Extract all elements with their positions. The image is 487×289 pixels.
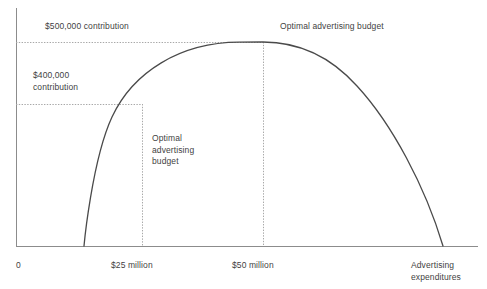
contribution-curve-figure: $500,000 contribution $400,000 contribut… [0,0,487,289]
contribution-500-label: $500,000 contribution [45,21,129,33]
x-axis-title: Advertising expenditures [411,260,461,283]
x-tick-label-zero: 0 [16,260,21,272]
contribution-400-label: $400,000 contribution [33,70,78,93]
optimal-budget-inner-label: Optimal advertising budget [152,133,194,168]
chart-plot-area [0,0,487,289]
optimal-budget-top-label: Optimal advertising budget [280,21,384,33]
x-tick-label-50-million: $50 million [232,260,274,272]
x-tick-label-25-million: $25 million [111,260,153,272]
